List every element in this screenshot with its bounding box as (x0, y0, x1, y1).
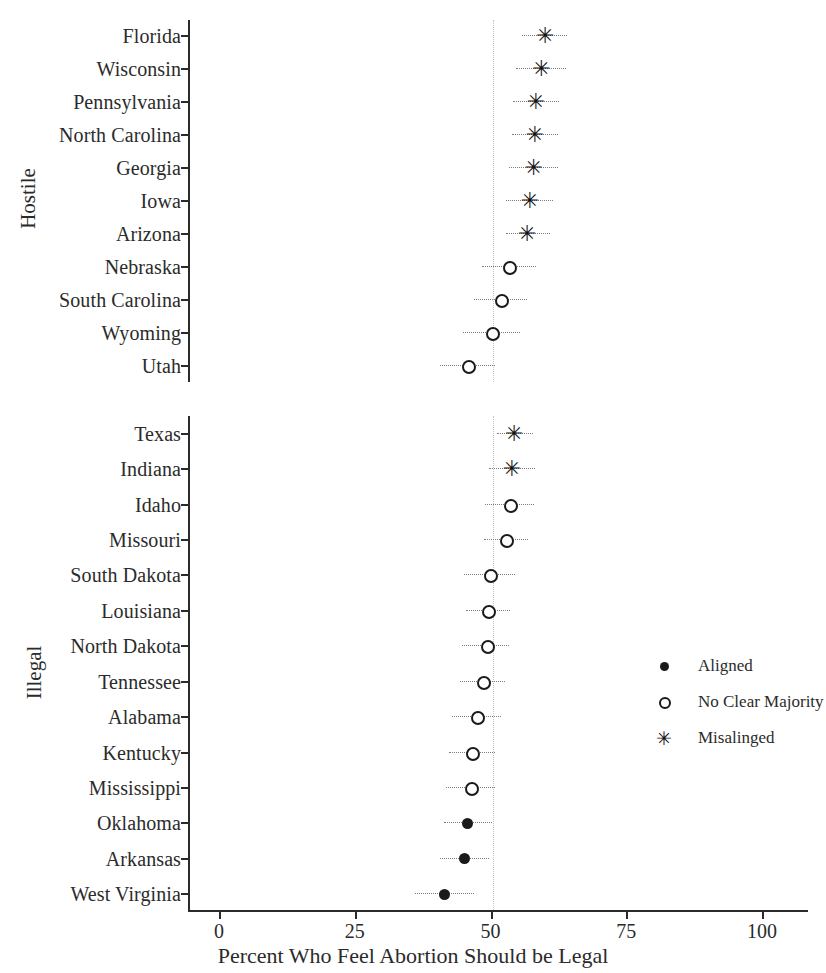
y-axis-tick (181, 468, 190, 470)
y-axis-tick (181, 681, 190, 683)
y-axis-tick (181, 266, 190, 268)
y-axis-tick-label: Mississippi (89, 778, 181, 798)
asterisk-icon: ✳ (503, 458, 521, 480)
y-axis-tick (181, 645, 190, 647)
y-axis-tick (181, 134, 190, 136)
asterisk-icon: ✳ (536, 25, 554, 47)
y-axis-tick (181, 716, 190, 718)
y-axis-tick-label: Iowa (141, 191, 181, 211)
data-point-misaligned: ✳ (529, 95, 543, 109)
y-axis-tick (181, 574, 190, 576)
data-point-nomajority (480, 639, 494, 653)
y-axis-tick-label: Utah (142, 356, 181, 376)
data-point-misaligned: ✳ (507, 427, 521, 441)
asterisk-icon: ✳ (518, 223, 536, 245)
data-point-aligned (458, 852, 472, 866)
x-axis-tick-label: 75 (616, 920, 636, 943)
y-axis-tick (181, 787, 190, 789)
data-point-aligned (461, 816, 475, 830)
y-axis-tick-label: North Dakota (70, 636, 181, 656)
y-axis-tick (181, 858, 190, 860)
x-axis-tick (355, 910, 357, 919)
data-point-nomajority (465, 746, 479, 760)
legend-item-nomajority[interactable]: No Clear Majority (656, 684, 826, 720)
open-circle-icon (656, 694, 672, 710)
asterisk-icon: ✳ (656, 730, 672, 746)
data-point-nomajority (470, 710, 484, 724)
y-axis-tick-label: Florida (123, 26, 181, 46)
x-axis-tick-label: 100 (747, 920, 777, 943)
panel-strip-label-illegal: Illegal (22, 593, 47, 753)
y-axis-tick-label: Oklahoma (97, 813, 181, 833)
y-axis-tick-label: Texas (134, 424, 181, 444)
y-axis-tick (181, 35, 190, 37)
x-axis-title: Percent Who Feel Abortion Should be Lega… (0, 943, 826, 969)
y-axis-tick-label: Nebraska (105, 257, 181, 277)
data-point-misaligned: ✳ (505, 462, 519, 476)
data-point-misaligned: ✳ (523, 194, 537, 208)
y-axis-tick-label: Arizona (116, 224, 181, 244)
asterisk-icon: ✳ (527, 91, 545, 113)
y-axis-tick (181, 433, 190, 435)
data-point-misaligned: ✳ (528, 128, 542, 142)
data-point-misaligned: ✳ (538, 29, 552, 43)
y-axis-tick-label: Georgia (116, 158, 181, 178)
y-axis-tick-label: North Carolina (59, 125, 181, 145)
data-point-nomajority (494, 293, 508, 307)
data-point-misaligned: ✳ (534, 62, 548, 76)
y-axis-tick (181, 504, 190, 506)
data-point-nomajority (502, 260, 516, 274)
dot-plot-figure: Hostile Florida✳Wisconsin✳Pennsylvania✳N… (0, 0, 826, 973)
legend: AlignedNo Clear Majority✳Misalinged (656, 648, 826, 756)
y-axis-tick (181, 101, 190, 103)
asterisk-icon: ✳ (526, 124, 544, 146)
data-point-nomajority (481, 604, 495, 618)
y-axis-tick-label: Tennessee (98, 672, 181, 692)
legend-label: Misalinged (698, 728, 775, 748)
asterisk-icon: ✳ (525, 157, 543, 179)
x-axis-tick (219, 910, 221, 919)
y-axis-tick (181, 299, 190, 301)
y-axis-tick-label: Missouri (109, 530, 181, 550)
legend-label: Aligned (698, 656, 753, 676)
data-point-misaligned: ✳ (520, 227, 534, 241)
y-axis-tick (181, 233, 190, 235)
y-axis-tick-label: Arkansas (106, 849, 181, 869)
data-point-aligned (437, 887, 451, 901)
x-axis-tick (626, 910, 628, 919)
data-point-nomajority (483, 568, 497, 582)
asterisk-icon: ✳ (521, 190, 539, 212)
y-axis-tick (181, 200, 190, 202)
legend-label: No Clear Majority (698, 692, 824, 712)
legend-item-misaligned[interactable]: ✳Misalinged (656, 720, 826, 756)
y-axis-tick (181, 539, 190, 541)
data-point-nomajority (476, 675, 490, 689)
y-axis-tick-label: West Virginia (70, 884, 181, 904)
data-point-nomajority (464, 781, 478, 795)
x-axis-tick (491, 910, 493, 919)
data-point-nomajority (461, 359, 475, 373)
y-axis-tick (181, 610, 190, 612)
reference-line-50 (493, 416, 494, 912)
y-axis-tick (181, 752, 190, 754)
filled-circle-icon (656, 658, 672, 674)
y-axis-tick-label: Kentucky (102, 743, 181, 763)
y-axis-tick-label: Louisiana (101, 601, 181, 621)
y-axis-tick (181, 365, 190, 367)
data-point-nomajority (503, 498, 517, 512)
legend-item-aligned[interactable]: Aligned (656, 648, 826, 684)
y-axis-tick (181, 893, 190, 895)
data-point-nomajority (499, 533, 513, 547)
y-axis-tick-label: Idaho (135, 495, 181, 515)
x-axis-left-cap (188, 899, 190, 910)
x-axis-tick-label: 25 (345, 920, 365, 943)
y-axis-tick-label: Wisconsin (96, 59, 181, 79)
y-axis-tick-label: South Carolina (59, 290, 181, 310)
y-axis-tick-label: Wyoming (102, 323, 182, 343)
y-axis-tick-label: Indiana (120, 459, 181, 479)
y-axis-tick (181, 167, 190, 169)
x-axis-tick-label: 0 (214, 920, 224, 943)
y-axis-tick-label: South Dakota (70, 565, 181, 585)
x-axis-tick-label: 50 (481, 920, 501, 943)
x-axis-spine (188, 910, 808, 912)
